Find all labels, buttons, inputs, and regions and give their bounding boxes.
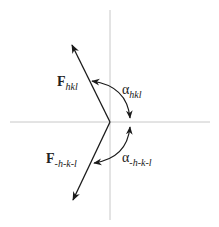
label-sub: -h-k-l (55, 158, 77, 169)
label-main: F (57, 74, 66, 89)
label-main: F (46, 151, 55, 166)
label-f-hkl: Fhkl (57, 74, 78, 90)
phase-diagram (0, 0, 219, 227)
label-alpha-neg: α-h-k-l (122, 150, 152, 166)
label-sub: hkl (129, 89, 141, 100)
label-f-neg: F-h-k-l (46, 151, 77, 167)
label-sub: -h-k-l (129, 157, 151, 168)
label-sub: hkl (66, 81, 78, 92)
label-alpha-hkl: αhkl (122, 82, 142, 98)
